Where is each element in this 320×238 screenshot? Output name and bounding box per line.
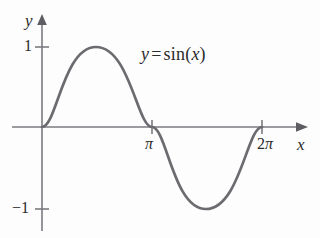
y-tick-label-one: 1 xyxy=(24,38,32,54)
sine-curve xyxy=(42,47,262,209)
x-axis-label: x xyxy=(297,136,305,153)
x-tick-label-two-pi: 2π xyxy=(257,136,273,152)
x-tick-label-two-pi-coefficient: 2 xyxy=(257,135,265,152)
x-tick-label-two-pi-symbol: π xyxy=(265,135,273,152)
y-axis-label: y xyxy=(25,12,33,29)
curve-equation-label: y=sin(x) xyxy=(141,45,206,63)
equation-function-name: sin xyxy=(164,44,186,64)
equation-variable: x xyxy=(191,44,199,64)
sine-graph-figure: y x 1 −1 π 2π y=sin(x) xyxy=(0,0,320,238)
equation-operator: = xyxy=(149,44,163,64)
y-tick-label-negative-one: −1 xyxy=(12,200,29,216)
plot-canvas xyxy=(0,0,320,238)
equation-lhs: y xyxy=(141,44,149,64)
x-tick-label-pi: π xyxy=(145,136,153,152)
y-axis-arrowhead xyxy=(37,14,47,25)
equation-close-paren: ) xyxy=(200,44,206,64)
x-axis-arrowhead xyxy=(296,122,308,132)
